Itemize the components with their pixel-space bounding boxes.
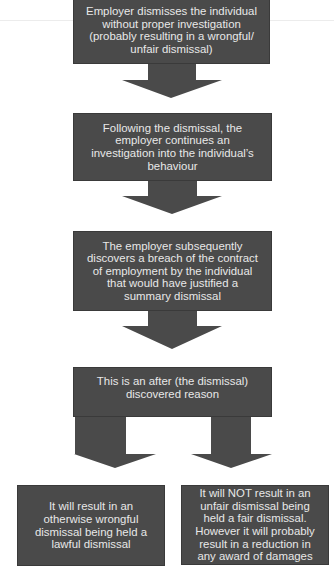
node-wrongful-outcome-text: It will result in an otherwise wrongful …	[26, 500, 156, 550]
node-dismissal: Employer dismisses the individual withou…	[73, 0, 270, 64]
node-breach: The employer subsequently discovers a br…	[73, 231, 272, 311]
node-dismissal-text: Employer dismisses the individual withou…	[82, 5, 261, 55]
arrow-to-unfair-outcome	[191, 416, 272, 468]
arrow-to-wrongful-outcome	[74, 416, 156, 468]
node-unfair-outcome: It will NOT result in an unfair dismissa…	[181, 485, 329, 565]
node-wrongful-outcome: It will result in an otherwise wrongful …	[17, 485, 165, 566]
node-unfair-outcome-text: It will NOT result in an unfair dismissa…	[190, 487, 320, 563]
node-investigation-text: Following the dismissal, the employer co…	[82, 122, 263, 172]
arrow-breach-to-after-discovered	[122, 310, 222, 349]
node-after-discovered-text: This is an after (the dismissal) discove…	[82, 375, 263, 400]
node-after-discovered: This is an after (the dismissal) discove…	[73, 367, 272, 417]
node-breach-text: The employer subsequently discovers a br…	[82, 240, 263, 303]
arrow-dismissal-to-investigation	[122, 64, 222, 98]
arrow-investigation-to-breach	[122, 180, 222, 214]
node-investigation: Following the dismissal, the employer co…	[73, 113, 272, 181]
